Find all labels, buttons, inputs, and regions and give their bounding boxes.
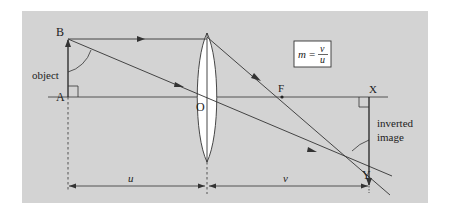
formula-denominator: u	[320, 54, 325, 65]
label-y: Y	[362, 168, 371, 182]
label-image: image	[377, 131, 404, 143]
label-f: F	[278, 82, 284, 94]
label-o: O	[196, 100, 205, 114]
label-inverted: inverted	[377, 117, 414, 129]
label-b: B	[56, 25, 64, 39]
label-u: u	[128, 172, 134, 184]
focus-point	[280, 95, 283, 98]
ray-diagram: B A O F X Y object inverted image u v m …	[0, 0, 450, 213]
formula-numerator: v	[320, 43, 325, 54]
label-x: X	[369, 83, 377, 95]
label-a: A	[56, 90, 65, 104]
formula-m: m	[298, 48, 306, 60]
label-v: v	[283, 172, 288, 184]
label-object: object	[32, 69, 59, 81]
formula-equals: =	[309, 48, 315, 60]
magnification-formula: m = v u	[294, 41, 331, 67]
